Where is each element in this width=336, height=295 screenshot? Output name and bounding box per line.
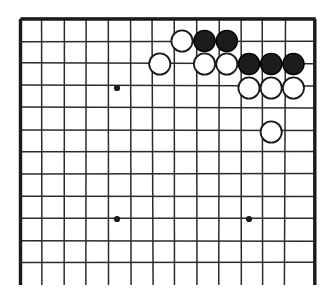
black-stone-2: [216, 30, 237, 51]
white-stone-3: [194, 53, 215, 74]
stone-body-white: [194, 53, 215, 74]
stones-group: [149, 30, 304, 142]
white-stone-7: [283, 77, 304, 98]
star-point-lower-left-icon: [114, 216, 120, 222]
star-point-lower-right-icon: [246, 216, 252, 222]
white-stone-1: [171, 30, 192, 51]
black-stone-1: [194, 30, 215, 51]
stone-body-white: [261, 77, 282, 98]
black-stone-3: [238, 53, 259, 74]
grid-line-horizontal: [21, 107, 315, 108]
star-point-upper-left-icon: [114, 85, 120, 91]
stone-body-white: [171, 30, 192, 51]
black-stone-5: [283, 53, 304, 74]
stone-body-black: [238, 53, 259, 74]
white-stone-5: [238, 77, 259, 98]
stone-body-white: [261, 121, 282, 142]
go-board-diagram: [0, 0, 336, 295]
grid-line-horizontal: [21, 241, 315, 242]
white-stone-6: [261, 77, 282, 98]
white-stone-2: [149, 53, 170, 74]
stone-body-black: [283, 53, 304, 74]
white-stone-4: [216, 53, 237, 74]
stone-body-white: [238, 77, 259, 98]
star-points-group: [114, 85, 252, 222]
stone-body-black: [261, 53, 282, 74]
stone-body-black: [194, 30, 215, 51]
stone-body-white: [149, 53, 170, 74]
stone-body-black: [216, 30, 237, 51]
stone-body-white: [216, 53, 237, 74]
black-stone-4: [261, 53, 282, 74]
white-stone-8: [261, 121, 282, 142]
go-board-canvas: [0, 0, 336, 295]
stone-body-white: [283, 77, 304, 98]
